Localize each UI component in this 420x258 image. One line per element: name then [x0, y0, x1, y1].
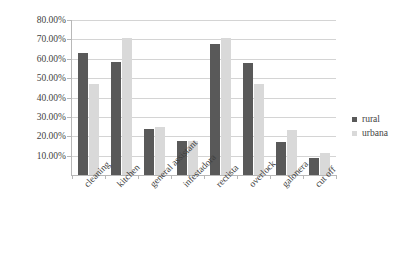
- y-axis-tick-label: 30.00%: [0, 112, 66, 122]
- bar-rural: [243, 63, 253, 175]
- bar-group: [105, 20, 138, 175]
- bar-urbana: [122, 38, 132, 175]
- chart-legend: ruralurbana: [352, 112, 388, 140]
- bar-group: [204, 20, 237, 175]
- bar-group: [237, 20, 270, 175]
- bar-group: [138, 20, 171, 175]
- bar-rural: [276, 142, 286, 175]
- bar-urbana: [89, 84, 99, 175]
- legend-label: urbana: [362, 126, 388, 140]
- legend-swatch-urbana: [352, 131, 357, 136]
- x-axis-tick-mark: [105, 175, 106, 179]
- x-axis-tick-mark: [72, 175, 73, 179]
- bar-group: [303, 20, 336, 175]
- plot-area: [71, 20, 336, 176]
- y-axis-tick-label: 40.00%: [0, 93, 66, 103]
- bar-group: [72, 20, 105, 175]
- bar-rural: [144, 129, 154, 176]
- y-axis-tick-label: 20.00%: [0, 131, 66, 141]
- legend-item-urbana: urbana: [352, 126, 388, 140]
- bar-urbana: [221, 38, 231, 175]
- legend-label: rural: [362, 112, 380, 126]
- x-axis-tick-mark: [336, 175, 337, 179]
- legend-swatch-rural: [352, 117, 357, 122]
- y-axis-tick-label: 70.00%: [0, 34, 66, 44]
- x-axis-tick-mark: [204, 175, 205, 179]
- y-axis-tick-label: 80.00%: [0, 15, 66, 25]
- x-axis-tick-mark: [138, 175, 139, 179]
- bar-rural: [78, 53, 88, 175]
- x-axis-tick-mark: [171, 175, 172, 179]
- y-axis-tick-label: 50.00%: [0, 73, 66, 83]
- bar-chart: 10.00%20.00%30.00%40.00%50.00%60.00%70.0…: [0, 0, 420, 258]
- x-axis-tick-mark: [303, 175, 304, 179]
- bar-urbana: [254, 84, 264, 175]
- x-axis-tick-mark: [270, 175, 271, 179]
- legend-item-rural: rural: [352, 112, 388, 126]
- y-axis-tick-label: 10.00%: [0, 151, 66, 161]
- bar-rural: [111, 62, 121, 175]
- x-axis-tick-mark: [237, 175, 238, 179]
- bar-group: [270, 20, 303, 175]
- y-axis-tick-label: 60.00%: [0, 54, 66, 64]
